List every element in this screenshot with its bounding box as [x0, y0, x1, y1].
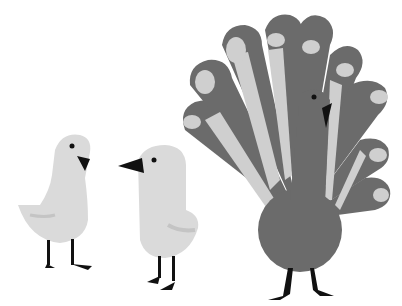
chick-left — [18, 135, 92, 270]
illustration — [0, 0, 402, 306]
chick-right — [118, 145, 198, 290]
scene-svg — [0, 0, 402, 306]
